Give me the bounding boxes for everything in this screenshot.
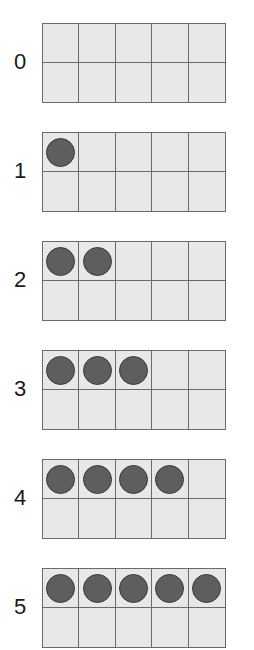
frame-cell	[116, 24, 152, 63]
number-label: 2	[8, 267, 32, 293]
frame-cell	[79, 351, 115, 390]
frame-cell	[116, 242, 152, 281]
number-label: 0	[8, 49, 32, 75]
frame-cell	[152, 569, 188, 608]
frame-cell	[79, 460, 115, 499]
counter-dot-icon	[83, 247, 112, 276]
counter-dot-icon	[155, 574, 184, 603]
frame-cell	[189, 281, 225, 320]
counter-dot-icon	[83, 574, 112, 603]
ten-frame	[42, 568, 226, 648]
frame-cell	[189, 24, 225, 63]
counter-dot-icon	[46, 574, 75, 603]
frame-cell	[43, 499, 79, 538]
counter-dot-icon	[83, 356, 112, 385]
ten-frame	[42, 241, 226, 321]
frame-cell	[116, 390, 152, 429]
frame-cell	[116, 351, 152, 390]
frame-cell	[152, 24, 188, 63]
frame-cell	[116, 499, 152, 538]
frame-cell	[116, 281, 152, 320]
frame-cell	[189, 460, 225, 499]
counter-dot-icon	[46, 247, 75, 276]
frame-cell	[79, 133, 115, 172]
ten-frame-row: 5	[0, 568, 254, 650]
frame-cell	[79, 569, 115, 608]
frame-cell	[152, 281, 188, 320]
frame-cell	[152, 608, 188, 647]
frame-cell	[189, 569, 225, 608]
frame-cell	[116, 133, 152, 172]
ten-frame	[42, 23, 226, 103]
frame-cell	[189, 172, 225, 211]
counter-dot-icon	[155, 465, 184, 494]
frame-cell	[116, 172, 152, 211]
frame-cell	[43, 63, 79, 102]
frame-cell	[43, 569, 79, 608]
frame-cell	[79, 281, 115, 320]
counter-dot-icon	[192, 574, 221, 603]
frame-cell	[43, 460, 79, 499]
ten-frame-row: 3	[0, 350, 254, 432]
frame-cell	[43, 24, 79, 63]
counter-dot-icon	[119, 574, 148, 603]
frame-cell	[79, 24, 115, 63]
frame-cell	[116, 460, 152, 499]
counter-dot-icon	[46, 356, 75, 385]
number-label: 5	[8, 594, 32, 620]
frame-cell	[43, 242, 79, 281]
frame-cell	[116, 569, 152, 608]
frame-cell	[152, 133, 188, 172]
frame-cell	[79, 390, 115, 429]
ten-frame-row: 2	[0, 241, 254, 323]
number-label: 3	[8, 376, 32, 402]
frame-cell	[189, 242, 225, 281]
frame-cell	[43, 133, 79, 172]
frame-cell	[189, 133, 225, 172]
frame-cell	[152, 499, 188, 538]
frame-cell	[152, 460, 188, 499]
counter-dot-icon	[119, 356, 148, 385]
ten-frame	[42, 459, 226, 539]
ten-frame	[42, 132, 226, 212]
frame-cell	[116, 608, 152, 647]
frame-cell	[43, 281, 79, 320]
number-label: 4	[8, 485, 32, 511]
frame-cell	[189, 63, 225, 102]
frame-cell	[152, 351, 188, 390]
ten-frame	[42, 350, 226, 430]
frame-cell	[152, 63, 188, 102]
frame-cell	[152, 172, 188, 211]
frame-cell	[189, 351, 225, 390]
frame-cell	[43, 172, 79, 211]
ten-frame-row: 0	[0, 23, 254, 105]
frame-cell	[189, 390, 225, 429]
frame-cell	[79, 242, 115, 281]
number-label: 1	[8, 158, 32, 184]
ten-frame-row: 4	[0, 459, 254, 541]
counter-dot-icon	[119, 465, 148, 494]
frame-cell	[189, 608, 225, 647]
frame-cell	[189, 499, 225, 538]
counter-dot-icon	[83, 465, 112, 494]
frame-cell	[152, 390, 188, 429]
frame-cell	[79, 608, 115, 647]
frame-cell	[116, 63, 152, 102]
frame-cell	[79, 63, 115, 102]
ten-frame-row: 1	[0, 132, 254, 214]
counter-dot-icon	[46, 465, 75, 494]
frame-cell	[43, 351, 79, 390]
frame-cell	[79, 499, 115, 538]
frame-cell	[43, 390, 79, 429]
frame-cell	[43, 608, 79, 647]
counter-dot-icon	[46, 138, 75, 167]
frame-cell	[79, 172, 115, 211]
frame-cell	[152, 242, 188, 281]
